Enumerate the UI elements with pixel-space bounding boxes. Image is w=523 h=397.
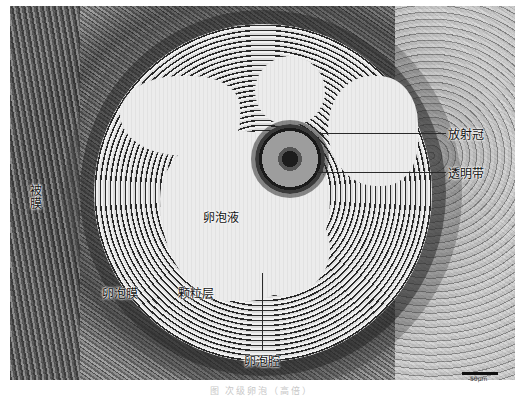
leader-antrum (262, 273, 263, 351)
label-capsule: 被膜 (26, 184, 43, 210)
label-theca: 卵泡膜 (102, 284, 138, 301)
scale-bar-text: 50μm (470, 375, 487, 382)
label-follicular-fluid: 卵泡液 (203, 208, 239, 225)
label-granulosa: 颗粒层 (178, 284, 214, 301)
figure-caption: 图 次级卵泡（高倍） (0, 384, 523, 397)
stroma-left (10, 6, 80, 380)
label-corona-radiata: 放射冠 (448, 125, 484, 142)
label-antrum: 卵泡腔 (244, 352, 280, 369)
leader-corona-radiata (322, 133, 446, 134)
antrum-region (328, 76, 418, 186)
antrum-region (255, 56, 325, 126)
leader-zona-pellucida (316, 172, 446, 173)
label-zona-pellucida: 透明带 (448, 164, 484, 181)
oocyte (255, 124, 325, 194)
